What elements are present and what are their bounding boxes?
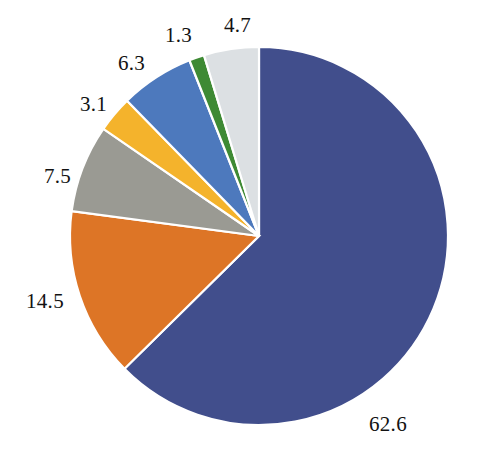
data-label-4-7: 4.7 (224, 15, 251, 36)
data-label-62-6: 62.6 (369, 414, 407, 435)
data-label-1-3: 1.3 (165, 25, 192, 46)
data-label-3-1: 3.1 (80, 94, 107, 115)
data-label-6-3: 6.3 (118, 53, 145, 74)
pie-chart-canvas (0, 0, 479, 459)
pie-slices-group (70, 47, 448, 425)
data-label-14-5: 14.5 (26, 291, 64, 312)
pie-chart-figure: 62.614.57.53.16.31.34.7 (0, 0, 479, 459)
data-label-7-5: 7.5 (44, 166, 71, 187)
